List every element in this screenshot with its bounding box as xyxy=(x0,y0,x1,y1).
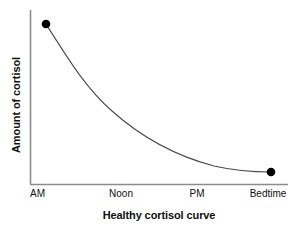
x-tick-label-bedtime: Bedtime xyxy=(244,188,292,200)
data-point-marker-am xyxy=(42,20,51,29)
x-tick-label-noon: Noon xyxy=(100,188,142,200)
y-axis-label: Amount of cortisol xyxy=(8,25,24,185)
data-point-marker-bedtime xyxy=(267,168,276,177)
x-tick-label-pm: PM xyxy=(182,188,212,200)
x-axis-title: Healthy cortisol curve xyxy=(30,209,288,221)
cortisol-curve-figure: Amount of cortisol AM Noon PM Bedtime He… xyxy=(0,0,300,234)
x-tick-label-am: AM xyxy=(30,188,45,200)
